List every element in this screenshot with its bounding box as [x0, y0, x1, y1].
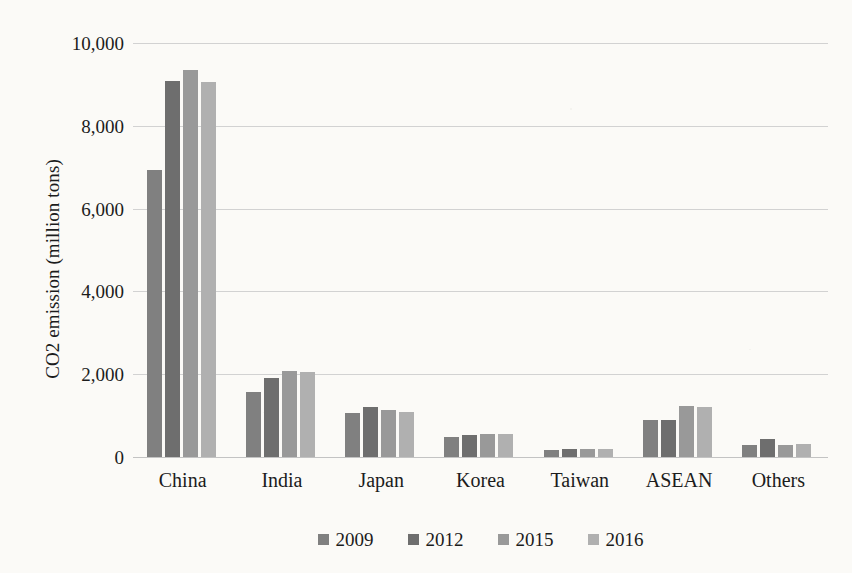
bar[interactable] — [381, 410, 396, 457]
bar[interactable] — [562, 449, 577, 457]
y-axis-tick-label: 6,000 — [40, 199, 124, 218]
bar[interactable] — [498, 434, 513, 457]
x-axis-category-label: ASEAN — [629, 466, 728, 498]
axis-baseline — [133, 457, 828, 458]
bar-set — [147, 43, 219, 457]
legend-swatch-square-icon — [498, 534, 509, 545]
bar-group — [729, 43, 828, 457]
bar[interactable] — [697, 407, 712, 458]
bar-group — [232, 43, 331, 457]
legend-label: 2012 — [426, 530, 464, 549]
bar[interactable] — [345, 413, 360, 457]
bar[interactable] — [399, 412, 414, 457]
bar-set — [643, 43, 715, 457]
bar[interactable] — [480, 434, 495, 457]
legend-label: 2016 — [606, 530, 644, 549]
legend-item[interactable]: 2016 — [588, 530, 644, 549]
y-axis-tick-labels: 02,0004,0006,0008,00010,000 — [36, 0, 124, 573]
legend-swatch-square-icon — [408, 534, 419, 545]
bar[interactable] — [147, 170, 162, 457]
y-axis-tick-label: 8,000 — [40, 116, 124, 135]
bar[interactable] — [165, 81, 180, 457]
x-axis-category-label: Taiwan — [530, 466, 629, 498]
bar[interactable] — [363, 407, 378, 457]
bar[interactable] — [300, 372, 315, 457]
y-axis-tick-label: 2,000 — [40, 365, 124, 384]
bar-group — [431, 43, 530, 457]
legend-item[interactable]: 2009 — [318, 530, 374, 549]
y-axis-tick-label: 4,000 — [40, 282, 124, 301]
bar[interactable] — [462, 435, 477, 457]
bar-groups — [133, 43, 828, 457]
plot-area — [133, 43, 828, 457]
x-axis-category-labels: ChinaIndiaJapanKoreaTaiwanASEANOthers — [133, 466, 828, 498]
legend-label: 2009 — [336, 530, 374, 549]
y-axis-tick-label: 10,000 — [40, 34, 124, 53]
bar[interactable] — [760, 439, 775, 457]
bar[interactable] — [264, 378, 279, 457]
bar-group — [530, 43, 629, 457]
x-axis-category-label: Others — [729, 466, 828, 498]
bar[interactable] — [661, 420, 676, 457]
bar[interactable] — [679, 406, 694, 457]
bar[interactable] — [796, 444, 811, 457]
chart-figure: CO2 emission (million tons) 02,0004,0006… — [0, 0, 852, 573]
bar[interactable] — [246, 392, 261, 457]
legend-swatch-square-icon — [588, 534, 599, 545]
legend-label: 2015 — [516, 530, 554, 549]
legend-item[interactable]: 2015 — [498, 530, 554, 549]
bar-set — [742, 43, 814, 457]
x-axis-category-label: Japan — [332, 466, 431, 498]
bar[interactable] — [544, 450, 559, 457]
x-axis-category-label: China — [133, 466, 232, 498]
x-axis-category-label: Korea — [431, 466, 530, 498]
bar[interactable] — [183, 70, 198, 457]
bar[interactable] — [598, 449, 613, 457]
bar[interactable] — [742, 445, 757, 457]
bar[interactable] — [778, 445, 793, 457]
bar-set — [444, 43, 516, 457]
bar[interactable] — [643, 420, 658, 457]
bar-group — [629, 43, 728, 457]
bar[interactable] — [282, 371, 297, 457]
bar[interactable] — [580, 449, 595, 457]
legend-swatch-square-icon — [318, 534, 329, 545]
y-axis-tick-label: 0 — [40, 448, 124, 467]
bar[interactable] — [201, 82, 216, 457]
legend-item[interactable]: 2012 — [408, 530, 464, 549]
bar-group — [133, 43, 232, 457]
bar-group — [332, 43, 431, 457]
bar-set — [544, 43, 616, 457]
bar-set — [345, 43, 417, 457]
chart-legend: 2009201220152016 — [133, 524, 828, 554]
bar-set — [246, 43, 318, 457]
x-axis-category-label: India — [232, 466, 331, 498]
bar[interactable] — [444, 437, 459, 457]
